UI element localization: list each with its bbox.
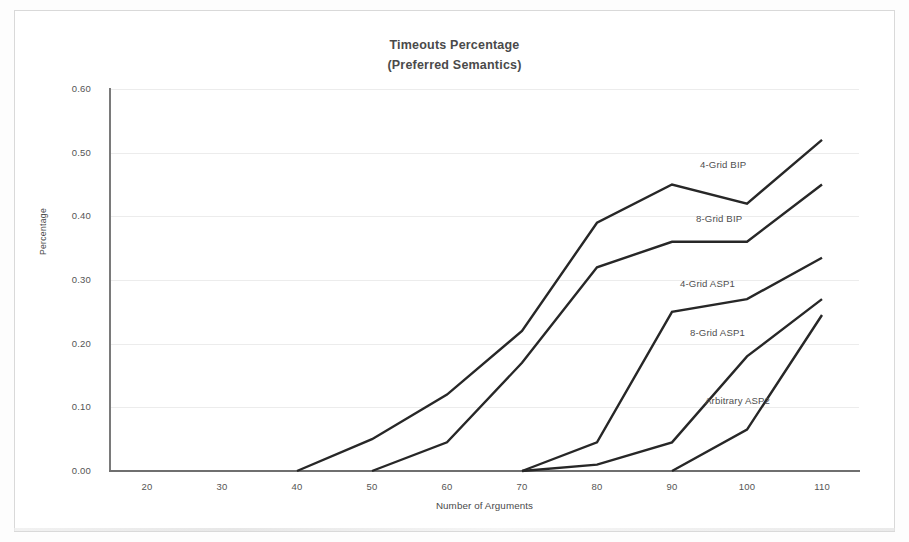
series-label: 8-Grid ASP1	[690, 327, 745, 338]
series-line	[522, 258, 822, 471]
plot-area: 0.000.100.200.300.400.500.60 20304050607…	[0, 0, 909, 542]
series-line	[297, 140, 822, 471]
series-label: 4-Grid ASP1	[680, 278, 735, 289]
series-label: 4-Grid BIP	[700, 159, 746, 170]
series-label: Arbitrary ASP2	[705, 395, 770, 406]
series-label: 8-Grid BIP	[696, 213, 742, 224]
series-line	[372, 185, 822, 472]
scanned-page: Timeouts Percentage (Preferred Semantics…	[0, 0, 909, 542]
series-line	[672, 315, 822, 471]
series-lines	[0, 0, 909, 542]
y-axis-title: Percentage	[38, 208, 48, 255]
x-axis-title: Number of Arguments	[109, 500, 860, 511]
